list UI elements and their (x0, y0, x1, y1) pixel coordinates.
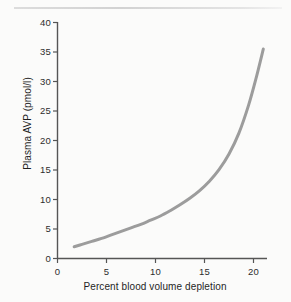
x-tick-label: 5 (95, 266, 119, 277)
chart-figure: 0510152025303540 05101520 Plasma AVP (pm… (0, 0, 291, 302)
x-tick-label: 15 (193, 266, 217, 277)
x-tick-label: 10 (144, 266, 168, 277)
y-tick-label: 5 (29, 223, 51, 234)
y-tick-label: 0 (29, 253, 51, 264)
x-tick-label: 20 (242, 266, 266, 277)
data-series-group (74, 49, 263, 247)
x-tick-label: 0 (46, 266, 70, 277)
y-tick-label: 40 (29, 17, 51, 28)
x-axis-label: Percent blood volume depletion (40, 281, 270, 292)
y-tick-label: 10 (29, 194, 51, 205)
y-axis-label: Plasma AVP (pmol/l) (22, 59, 33, 189)
y-tick-label: 35 (29, 46, 51, 57)
data-series-line (74, 49, 263, 247)
